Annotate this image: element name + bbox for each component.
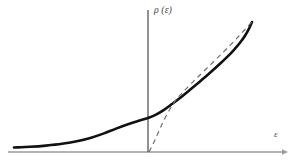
figure-container: ρ (ε) ε bbox=[0, 0, 296, 163]
y-axis-label: ρ (ε) bbox=[154, 5, 172, 15]
tangent-curve-dashed bbox=[149, 22, 252, 152]
density-curve-solid bbox=[14, 22, 252, 148]
x-axis-arrow-icon bbox=[282, 149, 288, 155]
x-axis-label: ε bbox=[274, 130, 278, 139]
plot-canvas bbox=[0, 0, 296, 163]
